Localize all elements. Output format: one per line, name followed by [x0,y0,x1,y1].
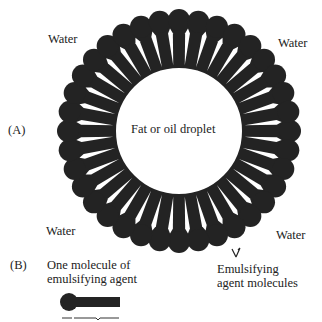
molecule-head [59,139,81,161]
molecule-head [168,231,190,253]
water-label-top-left: Water [48,32,78,46]
molecule-head [277,139,299,161]
molecule-head [64,158,86,180]
molecules-label-1: Emulsifying [217,262,279,276]
molecule-head [149,229,171,251]
molecule-head [187,229,209,251]
molecule-head [272,82,294,104]
molecule-head [59,101,81,123]
single-molecule-label-1: One molecule of [47,258,130,272]
droplet-label: Fat or oil droplet [131,122,215,136]
molecule-head [279,120,301,142]
molecule-head [206,224,228,246]
water-label-bottom-right: Water [276,228,306,242]
molecule-head [57,120,79,142]
molecule-head [187,11,209,33]
water-label-top-right: Water [278,36,308,50]
molecule-head [277,101,299,123]
molecules-label-2: agent molecules [217,276,298,290]
water-label-bottom-left: Water [46,224,76,238]
molecule-head [149,11,171,33]
panel-a-label: (A) [8,123,25,137]
panel-b-label: (B) [10,258,27,272]
molecule-head [130,16,152,38]
single-molecule-label-2: emulsifying agent [47,272,137,286]
molecule-head [168,9,190,31]
